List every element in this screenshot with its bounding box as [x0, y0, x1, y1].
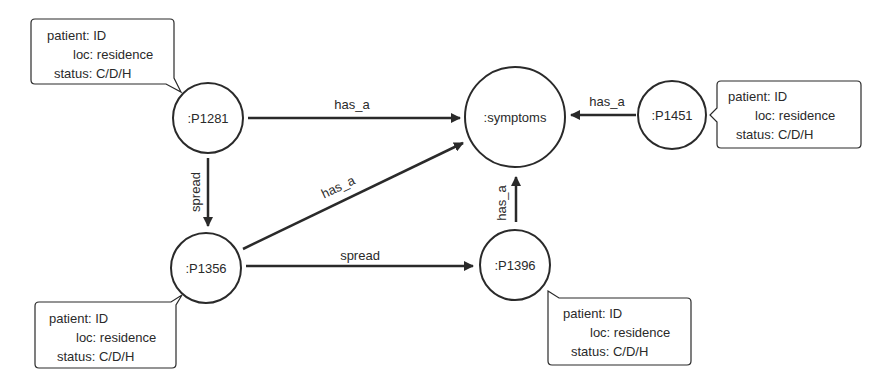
- edge-p1281-spread-p1356: spread: [188, 158, 208, 226]
- callout-line-status: status: C/D/H: [54, 66, 131, 81]
- callout-line-status: status: C/D/H: [57, 349, 134, 364]
- node-symptoms: :symptoms: [465, 67, 565, 167]
- node-label: :P1396: [494, 258, 535, 273]
- edge-p1451-has_a-symptoms: has_a: [571, 94, 636, 115]
- callout-line-patient: patient: ID: [563, 306, 622, 321]
- edge-p1396-has_a-symptoms: has_a: [494, 177, 516, 222]
- callout-line-loc: loc: residence: [590, 325, 670, 340]
- node-p1451: :P1451: [638, 81, 706, 149]
- callout-line-patient: patient: ID: [49, 311, 108, 326]
- edge-p1356-spread-p1396: spread: [246, 248, 473, 266]
- edge-label: has_a: [494, 185, 509, 221]
- edge-label: has_a: [589, 94, 625, 109]
- node-label: :symptoms: [484, 110, 547, 125]
- callout-p1451: patient: ID loc: residence status: C/D/H: [710, 81, 861, 148]
- node-label: :P1356: [185, 261, 226, 276]
- callout-line-status: status: C/D/H: [736, 127, 813, 142]
- edge-label: spread: [188, 172, 203, 212]
- node-p1356: :P1356: [171, 233, 241, 303]
- callout-line-patient: patient: ID: [728, 89, 787, 104]
- callout-p1356: patient: ID loc: residence status: C/D/H: [35, 295, 182, 368]
- callout-p1396: patient: ID loc: residence status: C/D/H: [548, 291, 691, 365]
- callout-line-patient: patient: ID: [47, 28, 106, 43]
- callout-line-loc: loc: residence: [755, 108, 835, 123]
- edge-p1281-has_a-symptoms: has_a: [248, 97, 460, 118]
- callout-p1281: patient: ID loc: residence status: C/D/H: [31, 19, 181, 92]
- callout-line-loc: loc: residence: [73, 47, 153, 62]
- knowledge-graph-diagram: has_a has_a spread has_a spread has_a :s…: [0, 0, 885, 387]
- node-label: :P1281: [187, 111, 228, 126]
- edge-label: spread: [340, 248, 380, 263]
- edge-label: has_a: [334, 97, 370, 112]
- callout-line-status: status: C/D/H: [571, 344, 648, 359]
- callout-line-loc: loc: residence: [76, 330, 156, 345]
- node-label: :P1451: [651, 108, 692, 123]
- node-p1281: :P1281: [173, 83, 243, 153]
- node-p1396: :P1396: [480, 230, 550, 300]
- edge-p1356-has_a-symptoms: has_a: [243, 143, 463, 249]
